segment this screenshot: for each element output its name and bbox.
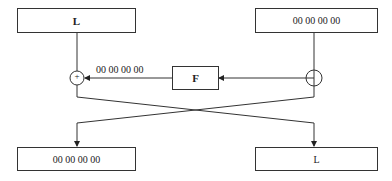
top-left-box: L: [17, 8, 136, 33]
xor-symbol: +: [73, 71, 81, 81]
bottom-left-box-label: 00 00 00 00: [53, 154, 101, 165]
top-left-box-label: L: [73, 15, 80, 27]
xor-to-bottom-right-arrow: [77, 85, 314, 146]
f-output-label: 00 00 00 00: [96, 64, 144, 75]
bottom-right-box-label: L: [313, 154, 319, 165]
bottom-left-box: 00 00 00 00: [17, 147, 136, 171]
top-right-box-label: 00 00 00 00: [293, 15, 341, 26]
function-box: F: [172, 66, 219, 90]
right-to-bottom-left-arrow: [77, 86, 314, 146]
top-right-box: 00 00 00 00: [255, 8, 378, 33]
function-box-label: F: [192, 72, 199, 84]
bottom-right-box: L: [255, 147, 378, 171]
